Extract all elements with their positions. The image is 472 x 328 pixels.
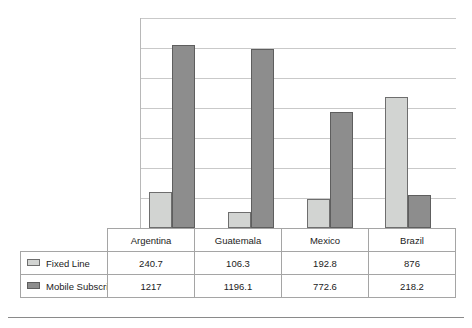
cell-fixed-line-mexico: 192.8 xyxy=(282,252,369,275)
bar-group xyxy=(299,18,378,228)
legend-label-fixed-line: Fixed Line xyxy=(46,258,90,269)
column-header-brazil: Brazil xyxy=(369,229,456,252)
cell-fixed-line-brazil: 876 xyxy=(369,252,456,275)
cell-mobile-argentina: 1217 xyxy=(108,275,195,298)
bar-mobile-subscriptions[interactable] xyxy=(330,112,353,228)
legend-swatch-icon-fixed-line xyxy=(27,259,40,266)
data-table: Argentina Guatemala Mexico Brazil Fixed … xyxy=(20,228,456,298)
legend-cell-fixed-line: Fixed Line xyxy=(21,252,108,275)
bar-mobile-subscriptions[interactable] xyxy=(172,45,195,228)
cell-mobile-mexico: 772.6 xyxy=(282,275,369,298)
table-row: Mobile Subscriptions 1217 1196.1 772.6 2… xyxy=(21,275,456,298)
table-row: Fixed Line 240.7 106.3 192.8 876 xyxy=(21,252,456,275)
bar-fixed-line[interactable] xyxy=(385,97,408,228)
bars-layer xyxy=(141,18,456,228)
bar-mobile-subscriptions[interactable] xyxy=(408,195,431,228)
bar-group xyxy=(141,18,220,228)
cell-mobile-guatemala: 1196.1 xyxy=(195,275,282,298)
bar-fixed-line[interactable] xyxy=(307,199,330,228)
column-header-guatemala: Guatemala xyxy=(195,229,282,252)
bar-group xyxy=(377,18,456,228)
bar-chart-figure: Argentina Guatemala Mexico Brazil Fixed … xyxy=(0,0,472,328)
column-header-argentina: Argentina xyxy=(108,229,195,252)
column-header-mexico: Mexico xyxy=(282,229,369,252)
table-header-row: Argentina Guatemala Mexico Brazil xyxy=(21,229,456,252)
legend-label-mobile-subscriptions: Mobile Subscriptions xyxy=(46,281,108,292)
bar-group xyxy=(220,18,299,228)
bar-fixed-line[interactable] xyxy=(149,192,172,228)
bar-mobile-subscriptions[interactable] xyxy=(251,49,274,228)
cell-fixed-line-argentina: 240.7 xyxy=(108,252,195,275)
cell-mobile-brazil: 218.2 xyxy=(369,275,456,298)
plot-area xyxy=(140,18,456,228)
table-corner-cell xyxy=(21,229,108,252)
legend-swatch-icon-mobile-subscriptions xyxy=(27,282,40,289)
bottom-divider xyxy=(8,317,464,318)
legend-cell-mobile-subscriptions: Mobile Subscriptions xyxy=(21,275,108,298)
cell-fixed-line-guatemala: 106.3 xyxy=(195,252,282,275)
bar-fixed-line[interactable] xyxy=(228,212,251,228)
